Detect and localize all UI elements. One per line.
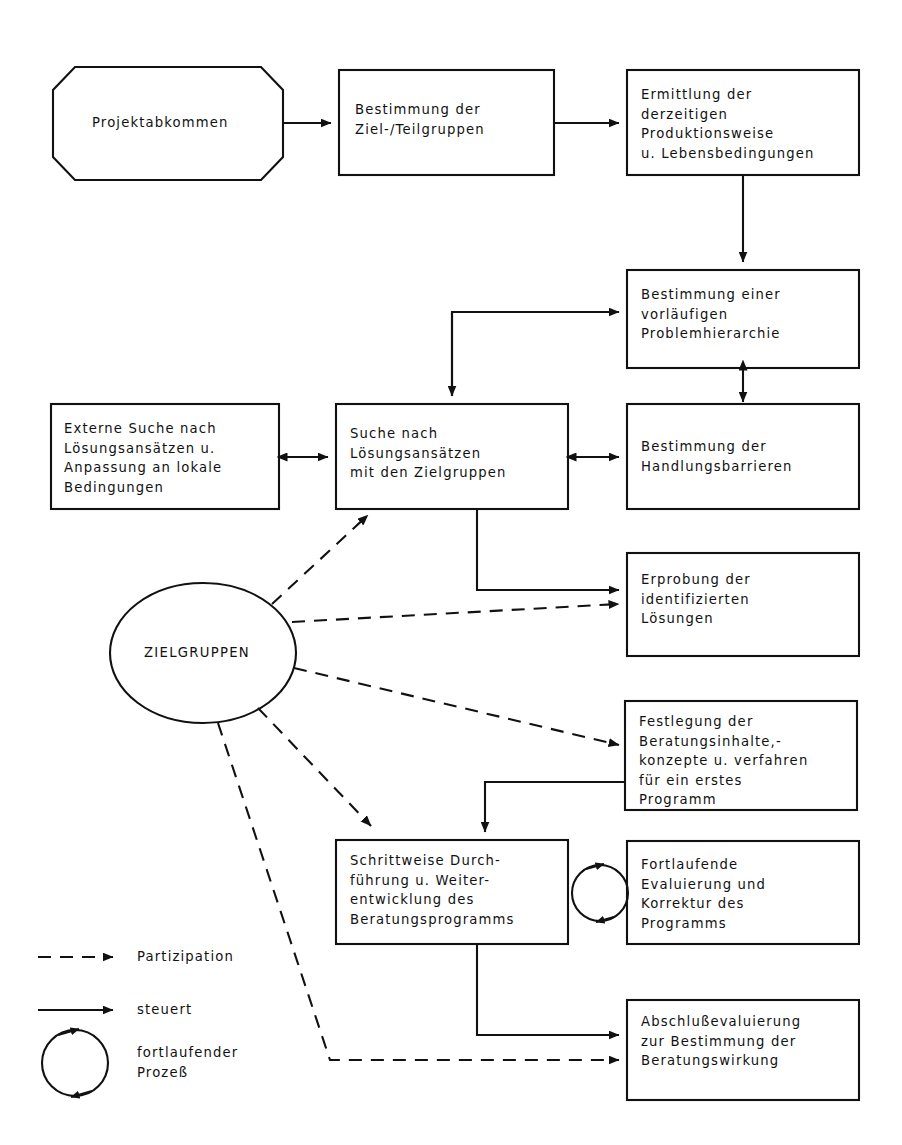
- node-shape-zielgruppen-bestimmung: [339, 70, 554, 175]
- diagram-canvas: Projektabkommen Bestimmung der Ziel-/Tei…: [0, 0, 902, 1145]
- node-shape-abschlussevaluierung: [627, 1000, 859, 1100]
- node-shape-suche-loesungsansaetze: [336, 404, 568, 509]
- edge-zielgruppen-to-erprobung: [292, 604, 619, 622]
- edge-schrittweise-to-abschluss: [477, 944, 619, 1035]
- edge-suche-to-problemhierarchie: [452, 312, 619, 396]
- edge-zielgruppen-to-schrittweise: [258, 708, 371, 826]
- node-shape-externe-suche: [51, 404, 279, 509]
- edge-suche-to-erprobung: [477, 509, 619, 590]
- node-shape-schrittweise-durchfuehrung: [336, 840, 568, 944]
- node-shape-fortlaufende-evaluierung: [627, 841, 859, 944]
- legend-label-partizipation: Partizipation: [137, 947, 234, 967]
- flowchart-graphic: [0, 0, 902, 1145]
- node-shape-erprobung: [627, 553, 859, 656]
- node-shape-festlegung-beratungsinhalte: [625, 701, 857, 810]
- edge-zielgruppen-to-abschluss: [218, 723, 619, 1060]
- edge-festlegung-to-schrittweise: [485, 782, 625, 832]
- node-shape-handlungsbarrieren: [627, 404, 859, 509]
- legend-label-steuert: steuert: [137, 1000, 192, 1020]
- node-shape-projektabkommen: [53, 67, 283, 180]
- fortlaufender-prozess-symbol: [572, 864, 628, 922]
- node-shape-problemhierarchie: [627, 270, 859, 368]
- node-shape-ermittlung-produktionsweise: [627, 70, 859, 175]
- edge-zielgruppen-to-festlegung: [294, 668, 619, 745]
- node-label-zielgruppen-ellipse: ZIELGRUPPEN: [144, 645, 250, 660]
- legend-circular-arrow: [42, 1029, 108, 1097]
- edge-zielgruppen-to-suche: [272, 515, 368, 604]
- legend-label-fortlaufender-prozess: fortlaufender Prozeß: [137, 1043, 238, 1082]
